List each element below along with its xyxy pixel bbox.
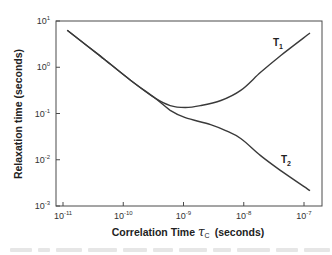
y-tick-label: 10-1 — [35, 108, 51, 119]
y-tick-label: 100 — [37, 61, 51, 72]
x-tick-label: 10-8 — [236, 210, 252, 221]
x-axis-ticks: 10-1110-1010-910-810-7 — [54, 202, 312, 221]
x-axis-unit: (seconds) — [215, 226, 265, 238]
y-tick-label: 10-2 — [35, 154, 51, 165]
y-tick-label: 10-3 — [35, 200, 51, 211]
y-axis-title: Relaxation time (seconds) — [12, 49, 24, 179]
x-tick-label: 10-7 — [296, 210, 312, 221]
figure-caption-faded — [10, 246, 330, 254]
series-label-t2: T2 — [281, 154, 291, 167]
series-lines — [67, 30, 310, 190]
series-labels: T1T2 — [273, 37, 291, 167]
x-tick-label: 10-9 — [176, 210, 192, 221]
x-axis-title: Correlation Time τC(seconds) — [112, 225, 264, 239]
x-axis-title-main: Correlation Time — [112, 226, 198, 238]
series-label-t1: T1 — [273, 37, 283, 50]
y-tick-label: 101 — [37, 15, 51, 26]
relaxation-time-chart: 10-1110-1010-910-810-7 10110010-110-210-… — [0, 0, 332, 255]
series-line-t2 — [67, 30, 310, 190]
x-tick-label: 10-10 — [114, 210, 133, 221]
x-tick-label: 10-11 — [54, 210, 73, 221]
tau-subscript: C — [205, 232, 210, 239]
